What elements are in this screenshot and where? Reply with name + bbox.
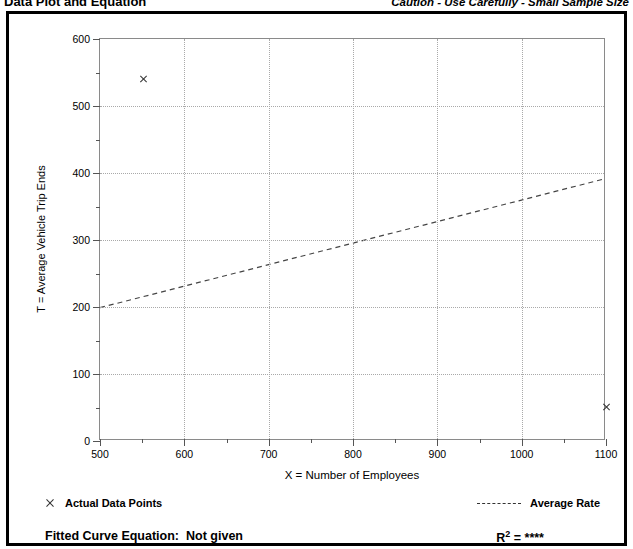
y-axis-tick [93,173,100,174]
x-axis-tick-label: 600 [176,448,194,460]
x-axis-tick [184,439,185,446]
plot-area: 0100200300400500600500600700800900100011… [99,38,605,440]
y-axis-tick-label: 100 [72,368,90,380]
y-axis-tick-label: 600 [72,33,90,45]
x-axis-tick-label: 900 [429,448,447,460]
r-squared-equals: = [514,531,521,545]
y-axis-tick-label: 0 [84,435,90,447]
r-squared-label: R [496,531,505,545]
chart-frame: T = Average Vehicle Trip Ends 0100200300… [6,11,627,546]
r-squared-exponent: 2 [505,529,510,539]
x-axis-tick [269,439,270,446]
x-axis-minor-tick [480,439,481,443]
legend-item-average-rate: Average Rate [477,497,600,509]
x-axis-tick-label: 1000 [510,448,533,460]
y-axis-tick-label: 500 [72,100,90,112]
y-axis-minor-tick [96,341,100,342]
y-axis-tick [93,39,100,40]
x-axis-tick [606,439,607,446]
legend-item-actual-data-points: Actual Data Points [45,497,162,509]
y-axis-minor-tick [96,140,100,141]
x-axis-title: X = Number of Employees [99,469,605,481]
y-axis-minor-tick [96,73,100,74]
fitted-curve-label: Fitted Curve Equation: [45,529,179,543]
chart-canvas: T = Average Vehicle Trip Ends 0100200300… [9,14,624,543]
caution-note: Caution - Use Carefully - Small Sample S… [391,0,629,11]
r-squared: R2 = **** [496,529,544,545]
y-axis-tick [93,240,100,241]
y-axis-minor-tick [96,207,100,208]
y-axis-tick [93,106,100,107]
x-axis-tick-label: 1100 [595,448,618,460]
x-axis-minor-tick [311,439,312,443]
dashed-line-icon [477,503,521,504]
x-axis-minor-tick [564,439,565,443]
y-axis-tick-label: 300 [72,234,90,246]
x-axis-tick [437,439,438,446]
x-axis-tick [100,439,101,446]
y-axis-tick [93,441,100,442]
legend-label-actual-data-points: Actual Data Points [65,497,162,509]
fitted-curve-value: Not given [186,529,243,543]
y-axis-minor-tick [96,408,100,409]
average-rate-trendline [100,39,604,439]
data-point-marker [139,74,148,83]
data-point-marker [602,402,611,411]
x-axis-tick [522,439,523,446]
y-axis-tick-label: 200 [72,301,90,313]
y-axis-tick [93,374,100,375]
legend-label-average-rate: Average Rate [530,497,600,509]
fitted-curve-equation: Fitted Curve Equation:Not given [45,529,243,543]
trendline-segment [100,179,604,308]
x-axis-minor-tick [142,439,143,443]
x-axis-minor-tick [227,439,228,443]
x-axis-tick-label: 800 [344,448,362,460]
y-axis-tick [93,307,100,308]
y-axis-tick-label: 400 [72,167,90,179]
x-axis-minor-tick [395,439,396,443]
x-axis-tick-label: 700 [260,448,278,460]
y-axis-title: T = Average Vehicle Trip Ends [33,38,49,440]
equation-row: Fitted Curve Equation:Not given R2 = ***… [9,529,624,549]
r-squared-value: **** [525,531,544,545]
x-axis-tick [353,439,354,446]
chart-legend: Actual Data Points Average Rate [9,497,624,519]
x-axis-tick-label: 500 [91,448,109,460]
x-marker-icon [45,498,55,508]
y-axis-minor-tick [96,274,100,275]
page-title: Data Plot and Equation [4,0,146,11]
y-axis-title-text: T = Average Vehicle Trip Ends [35,165,47,312]
